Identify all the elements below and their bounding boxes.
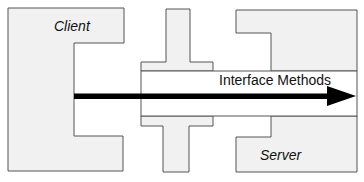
server-block-bottom bbox=[236, 116, 357, 172]
connector-bottom bbox=[141, 116, 213, 172]
arrow-shaft bbox=[74, 94, 330, 100]
interface-methods-label: Interface Methods bbox=[219, 72, 331, 88]
server-label: Server bbox=[260, 147, 301, 163]
client-server-interface-diagram: Client Interface Methods Server bbox=[0, 0, 364, 182]
client-label: Client bbox=[54, 18, 90, 34]
server-block-top bbox=[236, 10, 357, 71]
connector-top bbox=[141, 9, 213, 71]
